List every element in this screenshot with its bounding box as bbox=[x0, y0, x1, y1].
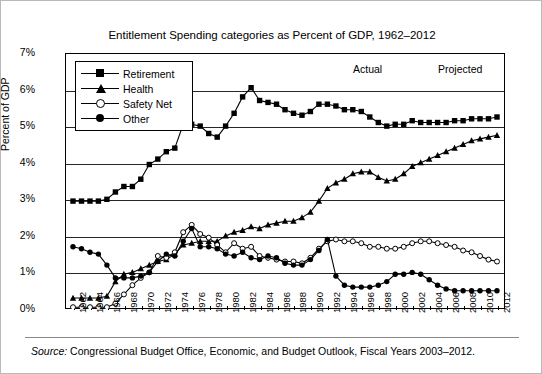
data-point bbox=[79, 246, 84, 251]
data-point bbox=[215, 134, 220, 139]
data-point bbox=[231, 253, 236, 258]
data-point bbox=[147, 270, 152, 275]
data-point bbox=[392, 176, 398, 182]
legend: Retirement Health Safety Net Other bbox=[75, 61, 193, 131]
data-point bbox=[401, 272, 406, 277]
x-tick-label: 1968 bbox=[128, 292, 139, 313]
data-point bbox=[393, 122, 398, 127]
data-point bbox=[121, 292, 126, 297]
x-tick-label: 1986 bbox=[281, 292, 292, 313]
data-point bbox=[410, 118, 415, 123]
data-point bbox=[376, 283, 381, 288]
data-point bbox=[494, 288, 499, 293]
data-point bbox=[443, 286, 448, 291]
circle-open-icon bbox=[81, 97, 119, 110]
legend-label: Retirement bbox=[123, 68, 174, 80]
data-point bbox=[375, 174, 381, 180]
data-point bbox=[291, 262, 296, 267]
x-tick-label: 1990 bbox=[314, 292, 325, 313]
data-point bbox=[104, 305, 109, 309]
y-tick-label: 3% bbox=[0, 192, 35, 204]
source-note: Source: Congressional Budget Office, Eco… bbox=[31, 345, 475, 357]
data-point bbox=[469, 250, 474, 255]
x-tick-label: 2004 bbox=[433, 292, 444, 313]
data-point bbox=[104, 262, 109, 267]
y-tick-label: 4% bbox=[0, 156, 35, 168]
data-point bbox=[274, 255, 279, 260]
x-tick-label: 1974 bbox=[179, 292, 190, 313]
data-point bbox=[341, 176, 347, 182]
data-point bbox=[155, 259, 160, 264]
x-tick-label: 1984 bbox=[264, 292, 275, 313]
data-point bbox=[333, 273, 338, 278]
data-point bbox=[367, 284, 372, 289]
data-point bbox=[410, 270, 415, 275]
data-point bbox=[427, 277, 432, 282]
data-point bbox=[257, 257, 262, 262]
data-point bbox=[486, 116, 491, 121]
x-tick-label: 2010 bbox=[484, 292, 495, 313]
data-point bbox=[342, 239, 347, 244]
x-tick-label: 2012 bbox=[501, 292, 512, 313]
data-point bbox=[418, 272, 423, 277]
data-point bbox=[147, 162, 152, 167]
data-point bbox=[104, 197, 109, 202]
annotation-projected: Projected bbox=[438, 63, 482, 75]
data-point bbox=[299, 262, 304, 267]
y-tick-label: 2% bbox=[0, 229, 35, 241]
data-point bbox=[401, 244, 406, 249]
data-point bbox=[223, 123, 228, 128]
data-point bbox=[435, 283, 440, 288]
data-point bbox=[130, 275, 135, 280]
data-point bbox=[494, 114, 499, 119]
data-point bbox=[265, 253, 270, 258]
data-point bbox=[70, 198, 75, 203]
data-point bbox=[96, 198, 101, 203]
data-point bbox=[359, 241, 364, 246]
data-point bbox=[71, 305, 76, 309]
data-point bbox=[248, 85, 253, 90]
data-point bbox=[164, 149, 169, 154]
data-point bbox=[460, 288, 465, 293]
data-point bbox=[198, 232, 203, 237]
data-point bbox=[435, 241, 440, 246]
data-point bbox=[249, 244, 254, 249]
data-point bbox=[265, 100, 270, 105]
data-point bbox=[138, 273, 143, 278]
divider bbox=[25, 337, 519, 338]
data-point bbox=[206, 244, 211, 249]
data-point bbox=[87, 198, 92, 203]
data-point bbox=[181, 239, 186, 244]
x-tick-label: 1976 bbox=[196, 292, 207, 313]
data-point bbox=[324, 185, 330, 191]
data-point bbox=[452, 244, 457, 249]
data-point bbox=[494, 132, 500, 138]
data-point bbox=[393, 246, 398, 251]
x-tick-label: 1998 bbox=[382, 292, 393, 313]
data-point bbox=[172, 253, 177, 258]
x-tick-label: 1970 bbox=[145, 292, 156, 313]
data-point bbox=[359, 109, 364, 114]
data-point bbox=[393, 272, 398, 277]
data-point bbox=[96, 251, 101, 256]
data-point bbox=[189, 226, 194, 231]
x-tick-label: 1980 bbox=[230, 292, 241, 313]
x-tick-label: 1992 bbox=[331, 292, 342, 313]
legend-item-health: Health bbox=[81, 81, 187, 96]
y-tick-label: 0% bbox=[0, 302, 35, 314]
y-tick-label: 7% bbox=[0, 46, 35, 58]
data-point bbox=[257, 98, 262, 103]
data-point bbox=[155, 156, 160, 161]
data-point bbox=[333, 237, 338, 242]
circle-filled-icon bbox=[81, 112, 119, 125]
data-point bbox=[240, 94, 245, 99]
data-point bbox=[350, 107, 355, 112]
data-point bbox=[70, 244, 75, 249]
data-point bbox=[113, 189, 118, 194]
x-tick-label: 2000 bbox=[399, 292, 410, 313]
legend-label: Other bbox=[123, 113, 149, 125]
data-point bbox=[444, 243, 449, 248]
data-point bbox=[427, 239, 432, 244]
y-tick-label: 6% bbox=[0, 83, 35, 95]
data-point bbox=[282, 107, 287, 112]
